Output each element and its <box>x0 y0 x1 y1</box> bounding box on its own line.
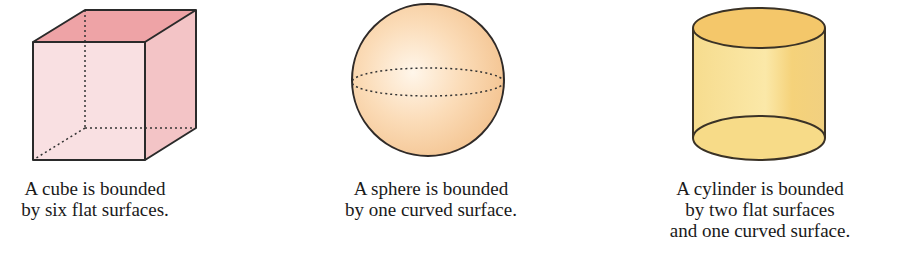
sphere-icon <box>330 0 530 170</box>
cylinder-icon <box>670 0 850 170</box>
cylinder-caption-line-1: A cylinder is bounded <box>640 178 880 199</box>
cube-caption: A cube is bounded by six flat surfaces. <box>0 178 190 220</box>
cylinder-caption: A cylinder is bounded by two flat surfac… <box>640 178 880 241</box>
cylinder-caption-line-3: and one curved surface. <box>640 220 880 241</box>
cylinder-figure <box>670 0 850 170</box>
sphere-caption-line-1: A sphere is bounded <box>318 178 544 199</box>
cube-caption-line-2: by six flat surfaces. <box>0 199 190 220</box>
cube-icon <box>0 0 220 170</box>
cube-caption-line-1: A cube is bounded <box>0 178 190 199</box>
sphere-figure <box>330 0 530 170</box>
sphere-caption-line-2: by one curved surface. <box>318 199 544 220</box>
cylinder-caption-line-2: by two flat surfaces <box>640 199 880 220</box>
sphere-caption: A sphere is bounded by one curved surfac… <box>318 178 544 220</box>
cube-figure <box>0 0 220 170</box>
